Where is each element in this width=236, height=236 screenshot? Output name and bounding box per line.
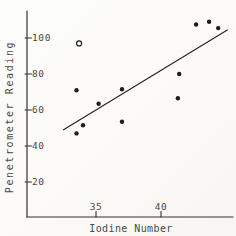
open-circle-marker [77, 41, 82, 46]
filled-circle-marker [96, 102, 100, 106]
y-tick-label: 80 [32, 68, 45, 80]
filled-circle-marker [81, 123, 85, 127]
y-tick-label: 40 [32, 140, 45, 152]
y-tick-label: 60 [32, 104, 45, 116]
x-tick-label: 35 [90, 201, 103, 212]
y-tick-label: 20 [32, 176, 45, 188]
x-axis-label: Iodine Number [89, 223, 172, 234]
filled-circle-marker [120, 87, 124, 91]
filled-circle-marker [74, 88, 78, 92]
fit-line [64, 30, 228, 130]
scatter-plot-figure: Penetrometer Reading Iodine Number 10080… [0, 0, 236, 236]
filled-circle-marker [216, 26, 220, 30]
filled-circle-marker [120, 120, 124, 124]
filled-circle-marker [74, 131, 78, 135]
filled-circle-marker [176, 96, 180, 100]
filled-circle-marker [177, 72, 181, 76]
filled-circle-marker [194, 22, 198, 26]
y-tick-label: 100 [32, 32, 51, 44]
x-tick-label: 40 [155, 201, 168, 212]
filled-circle-marker [207, 20, 211, 24]
y-axis-label: Penetrometer Reading [4, 41, 15, 193]
